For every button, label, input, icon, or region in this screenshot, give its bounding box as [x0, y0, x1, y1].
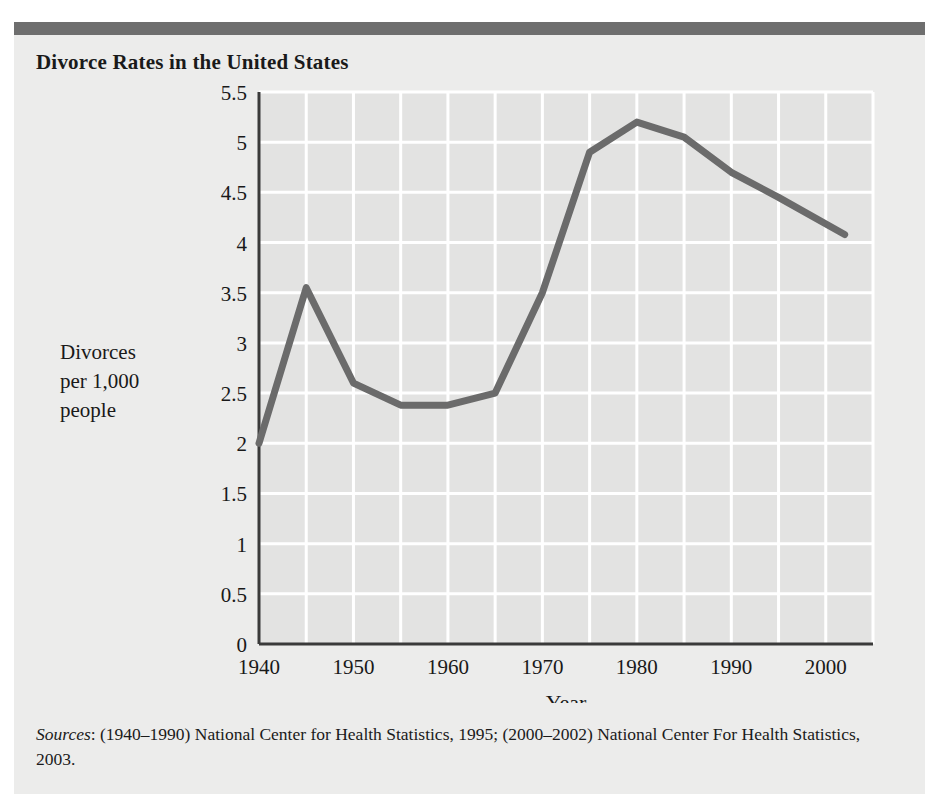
x-tick-label: 1960 [427, 655, 469, 679]
page-title: Divorce Rates in the United States [36, 50, 349, 75]
chart-svg: 00.511.522.533.544.555.5 194019501960197… [14, 78, 925, 703]
y-axis-title: Divorces per 1,000 people [60, 340, 139, 422]
x-tick-label: 1970 [521, 655, 563, 679]
y-tick-label: 1 [237, 533, 248, 557]
y-tick-label: 2 [237, 432, 248, 456]
source-note-text: : (1940–1990) National Center for Health… [36, 724, 860, 769]
x-tick-label: 1990 [710, 655, 752, 679]
plot-background-group [259, 92, 873, 644]
plot-background [259, 92, 873, 644]
y-axis-title-line-2: per 1,000 [60, 369, 139, 393]
y-axis-tick-labels: 00.511.522.533.544.555.5 [221, 81, 248, 657]
y-axis-title-line-1: Divorces [60, 340, 136, 364]
figure-page: Divorce Rates in the United States 00.51… [0, 0, 939, 812]
y-axis-title-line-3: people [60, 398, 116, 422]
top-rule-divider [14, 22, 925, 35]
line-chart: 00.511.522.533.544.555.5 194019501960197… [14, 78, 925, 703]
y-tick-label: 1.5 [221, 482, 247, 506]
x-tick-label: 1980 [616, 655, 658, 679]
y-tick-label: 3 [237, 332, 248, 356]
source-note-label: Sources [36, 724, 91, 744]
x-tick-label: 1940 [238, 655, 280, 679]
x-axis-tick-labels: 1940195019601970198019902000 [238, 655, 847, 679]
y-tick-label: 5 [237, 131, 248, 155]
y-tick-label: 0 [237, 633, 248, 657]
x-tick-label: 1950 [332, 655, 374, 679]
x-axis-title: Year [546, 690, 587, 703]
y-tick-label: 4.5 [221, 181, 247, 205]
y-tick-label: 4 [237, 232, 248, 256]
y-tick-label: 0.5 [221, 583, 247, 607]
source-note: Sources: (1940–1990) National Center for… [36, 722, 886, 772]
y-tick-label: 5.5 [221, 81, 247, 105]
y-tick-label: 2.5 [221, 382, 247, 406]
y-tick-label: 3.5 [221, 282, 247, 306]
x-tick-label: 2000 [805, 655, 847, 679]
